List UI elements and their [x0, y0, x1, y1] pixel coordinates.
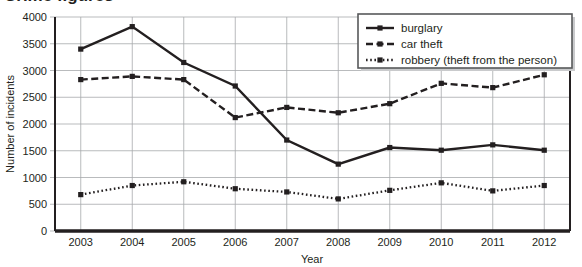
data-point-marker: [387, 101, 392, 106]
y-axis-title: Number of incidents: [4, 75, 16, 173]
data-point-marker: [439, 81, 444, 86]
data-point-marker: [542, 72, 547, 77]
data-point-marker: [336, 162, 341, 167]
data-point-marker: [233, 186, 238, 191]
x-tick-label: 2009: [378, 236, 402, 248]
legend-label-0: burglary: [401, 22, 443, 34]
x-tick-label: 2006: [223, 236, 247, 248]
chart-page: Crime figures 05001000150020002500300035…: [0, 0, 582, 267]
data-point-marker: [490, 188, 495, 193]
data-point-marker: [233, 115, 238, 120]
x-tick-label: 2011: [481, 236, 505, 248]
data-point-marker: [387, 188, 392, 193]
data-point-marker: [490, 85, 495, 90]
data-point-marker: [78, 192, 83, 197]
data-point-marker: [78, 77, 83, 82]
data-point-marker: [387, 145, 392, 150]
data-point-marker: [336, 110, 341, 115]
y-tick-label: 1500: [23, 145, 47, 157]
x-tick-label: 2008: [326, 236, 350, 248]
x-tick-label: 2010: [429, 236, 453, 248]
legend-label-2: robbery (theft from the person): [401, 54, 557, 66]
chart-legend: burglarycar theftrobbery (theft from the…: [358, 14, 575, 71]
data-point-marker: [284, 189, 289, 194]
data-point-marker: [439, 180, 444, 185]
y-tick-label: 3500: [23, 38, 47, 50]
x-tick-label: 2004: [120, 236, 144, 248]
y-axis-ticks: 05001000150020002500300035004000: [23, 11, 55, 237]
data-point-marker: [284, 137, 289, 142]
legend-label-1: car theft: [401, 38, 443, 50]
data-point-marker: [130, 24, 135, 29]
y-tick-label: 4000: [23, 11, 47, 23]
x-axis-title: Year: [301, 253, 324, 265]
data-point-marker: [130, 183, 135, 188]
x-tick-label: 2003: [69, 236, 93, 248]
y-tick-label: 0: [41, 225, 47, 237]
y-tick-label: 1000: [23, 172, 47, 184]
data-point-marker: [233, 83, 238, 88]
data-point-marker: [542, 148, 547, 153]
data-point-marker: [542, 183, 547, 188]
y-tick-label: 2000: [23, 118, 47, 130]
series-line-robbery: [81, 182, 545, 199]
data-point-marker: [336, 196, 341, 201]
data-point-marker: [439, 148, 444, 153]
data-point-marker: [181, 77, 186, 82]
x-tick-label: 2005: [172, 236, 196, 248]
data-point-marker: [130, 74, 135, 79]
data-point-marker: [181, 60, 186, 65]
y-tick-label: 2500: [23, 91, 47, 103]
x-tick-label: 2012: [532, 236, 556, 248]
data-point-marker: [490, 142, 495, 147]
line-chart: 05001000150020002500300035004000 2003200…: [0, 0, 582, 267]
data-point-marker: [78, 47, 83, 52]
data-point-marker: [181, 179, 186, 184]
x-axis-ticks: 2003200420052006200720082009201020112012: [69, 236, 557, 248]
series-line-car: [81, 75, 545, 118]
y-tick-label: 3000: [23, 65, 47, 77]
y-tick-label: 500: [29, 198, 47, 210]
data-point-marker: [284, 105, 289, 110]
x-tick-label: 2007: [275, 236, 299, 248]
